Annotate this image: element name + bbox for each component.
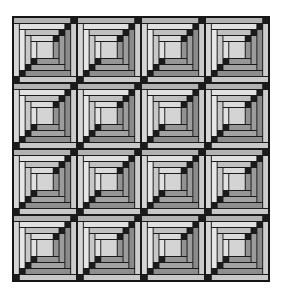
log-right	[65, 162, 70, 202]
log-left	[14, 24, 19, 76]
cornerstone-top-right	[199, 150, 204, 155]
log-bottom	[218, 137, 263, 142]
log-right	[60, 102, 65, 130]
log-bottom	[218, 71, 263, 76]
log-bottom	[154, 137, 199, 142]
log-left	[20, 96, 25, 136]
log-top	[90, 30, 123, 35]
cornerstone-bottom-left	[223, 125, 228, 130]
log-left	[84, 228, 89, 268]
log-right	[135, 24, 140, 76]
log-right	[263, 222, 268, 274]
log-right	[60, 36, 65, 64]
cornerstone-bottom-left	[31, 257, 36, 262]
log-right	[118, 108, 123, 124]
log-left	[212, 162, 217, 202]
log-bottom	[148, 209, 204, 214]
cornerstone-bottom-left	[26, 263, 31, 268]
log-left	[148, 228, 153, 268]
log-left	[154, 102, 159, 130]
center-square	[229, 240, 245, 256]
log-right	[246, 42, 251, 58]
cornerstone-top-right	[257, 222, 262, 227]
log-top	[84, 156, 129, 161]
log-top	[84, 222, 129, 227]
log-right	[135, 222, 140, 274]
cornerstone-top-right	[193, 222, 198, 227]
cornerstone-bottom-left	[142, 275, 147, 280]
log-top	[31, 36, 52, 41]
log-bottom	[223, 263, 256, 268]
cornerstone-top-right	[129, 90, 134, 95]
log-bottom	[37, 125, 58, 130]
log-left	[95, 240, 100, 256]
center-square	[101, 240, 117, 256]
cornerstone-bottom-left	[223, 257, 228, 262]
log-bottom	[95, 131, 128, 136]
cornerstone-top-right	[135, 150, 140, 155]
log-left	[95, 108, 100, 124]
cornerstone-bottom-left	[206, 77, 211, 82]
cornerstone-top-right	[135, 18, 140, 23]
log-top	[223, 234, 244, 239]
log-bottom	[212, 209, 268, 214]
cornerstone-bottom-left	[90, 263, 95, 268]
cornerstone-top-right	[252, 162, 257, 167]
cornerstone-top-right	[124, 162, 129, 167]
cornerstone-bottom-left	[223, 191, 228, 196]
center-square	[101, 108, 117, 124]
cornerstone-top-right	[71, 84, 76, 89]
cornerstone-top-right	[71, 150, 76, 155]
log-bottom	[84, 275, 140, 280]
log-top	[78, 18, 134, 23]
cornerstone-bottom-left	[212, 203, 217, 208]
log-bottom	[229, 257, 250, 262]
cornerstone-bottom-left	[90, 197, 95, 202]
log-top	[26, 30, 59, 35]
log-left	[31, 174, 36, 190]
center-square	[101, 174, 117, 190]
log-right	[54, 42, 59, 58]
log-bottom	[20, 275, 76, 280]
center-square	[37, 42, 53, 58]
log-right	[252, 168, 257, 196]
cornerstone-bottom-left	[159, 257, 164, 262]
cornerstone-top-right	[54, 234, 59, 239]
log-right	[124, 102, 129, 130]
cornerstone-bottom-left	[95, 125, 100, 130]
log-left	[78, 24, 83, 76]
log-top	[212, 222, 257, 227]
log-right	[135, 90, 140, 142]
cornerstone-bottom-left	[142, 143, 147, 148]
log-bottom	[90, 137, 135, 142]
log-right	[199, 24, 204, 76]
quilt-block	[14, 84, 76, 148]
log-top	[78, 150, 134, 155]
cornerstone-top-right	[60, 96, 65, 101]
log-left	[78, 222, 83, 274]
log-top	[142, 216, 198, 221]
cornerstone-top-right	[263, 18, 268, 23]
cornerstone-bottom-left	[218, 197, 223, 202]
quilt-block	[78, 150, 140, 214]
cornerstone-top-right	[246, 168, 251, 173]
log-right	[118, 240, 123, 256]
log-left	[148, 30, 153, 70]
quilt-block	[142, 18, 204, 82]
log-top	[142, 150, 198, 155]
cornerstone-bottom-left	[78, 77, 83, 82]
cornerstone-bottom-left	[142, 77, 147, 82]
log-bottom	[154, 71, 199, 76]
log-right	[54, 174, 59, 190]
log-right	[252, 102, 257, 130]
cornerstone-top-right	[263, 216, 268, 221]
log-top	[159, 102, 180, 107]
log-top	[26, 162, 59, 167]
log-right	[257, 96, 262, 136]
cornerstone-bottom-left	[159, 191, 164, 196]
log-bottom	[229, 191, 250, 196]
cornerstone-top-right	[65, 156, 70, 161]
log-right	[193, 162, 198, 202]
log-left	[223, 42, 228, 58]
cornerstone-top-right	[54, 168, 59, 173]
